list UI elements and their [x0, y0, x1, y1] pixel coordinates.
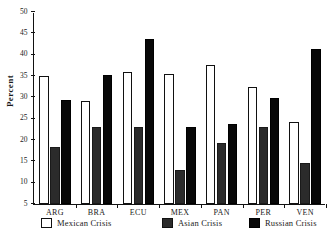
- legend-label: Asian Crisis: [178, 218, 222, 228]
- bar-per-mexican[interactable]: [248, 87, 258, 204]
- bar-mex-asian[interactable]: [175, 170, 185, 204]
- bar-ven-russian[interactable]: [311, 49, 321, 204]
- x-axis-tick: [326, 204, 327, 208]
- bar-ecu-asian[interactable]: [134, 127, 144, 204]
- plot-area: 5101520253035404550ARGBRAECUMEXPANPERVEN: [33, 13, 325, 205]
- bar-ven-mexican[interactable]: [289, 122, 299, 204]
- x-axis-label-ecu: ECU: [130, 208, 147, 217]
- y-axis-tick-label: 15: [20, 156, 28, 166]
- bar-group: VEN: [284, 13, 326, 204]
- x-axis-tick: [76, 204, 77, 208]
- y-axis-tick-label: 30: [20, 92, 28, 102]
- y-axis-tick-label: 10: [20, 177, 28, 187]
- y-axis-tick-label: 5: [24, 199, 28, 209]
- bar-group: PAN: [201, 13, 243, 204]
- x-axis-tick: [117, 204, 118, 208]
- y-axis-tick: 50: [31, 11, 35, 12]
- bar-per-russian[interactable]: [270, 98, 280, 204]
- bar-pan-mexican[interactable]: [206, 65, 216, 204]
- x-axis-tick: [243, 204, 244, 208]
- bar-bra-mexican[interactable]: [81, 101, 91, 204]
- bar-chart: Percent 5101520253035404550ARGBRAECUMEXP…: [0, 0, 336, 239]
- legend-item-mexican[interactable]: Mexican Crisis: [41, 218, 112, 228]
- bar-group: ECU: [117, 13, 159, 204]
- bar-pan-asian[interactable]: [217, 143, 227, 204]
- y-axis-label: Percent: [5, 61, 15, 121]
- x-axis-label-bra: BRA: [88, 208, 105, 217]
- bar-ecu-mexican[interactable]: [123, 72, 133, 204]
- bar-group: MEX: [159, 13, 201, 204]
- legend-item-asian[interactable]: Asian Crisis: [162, 218, 222, 228]
- bar-bra-russian[interactable]: [103, 75, 113, 204]
- legend-label: Russian Crisis: [265, 218, 317, 228]
- x-axis-label-arg: ARG: [46, 208, 64, 217]
- bar-bra-asian[interactable]: [92, 127, 102, 204]
- x-axis-label-pan: PAN: [214, 208, 230, 217]
- y-axis-tick-label: 40: [20, 49, 28, 59]
- legend-label: Mexican Crisis: [57, 218, 112, 228]
- bar-group: PER: [243, 13, 285, 204]
- bar-ecu-russian[interactable]: [145, 39, 155, 204]
- bar-per-asian[interactable]: [259, 127, 269, 204]
- chart-legend: Mexican CrisisAsian CrisisRussian Crisis: [33, 218, 333, 234]
- legend-item-russian[interactable]: Russian Crisis: [249, 218, 317, 228]
- russian-crisis-swatch: [249, 218, 260, 228]
- y-axis-tick-label: 35: [20, 71, 28, 81]
- x-axis-tick: [201, 204, 202, 208]
- bar-group: ARG: [34, 13, 76, 204]
- x-axis-tick: [159, 204, 160, 208]
- y-axis-tick-label: 20: [20, 135, 28, 145]
- mexican-crisis-swatch: [41, 218, 52, 228]
- bar-arg-asian[interactable]: [50, 147, 60, 204]
- bar-mex-mexican[interactable]: [164, 74, 174, 204]
- bar-arg-russian[interactable]: [61, 100, 71, 204]
- x-axis-label-mex: MEX: [171, 208, 190, 217]
- bar-pan-russian[interactable]: [228, 124, 238, 204]
- bar-arg-mexican[interactable]: [39, 76, 49, 204]
- x-axis-label-ven: VEN: [296, 208, 313, 217]
- x-axis-label-per: PER: [256, 208, 272, 217]
- y-axis-tick-label: 45: [20, 28, 28, 38]
- x-axis-tick: [284, 204, 285, 208]
- bar-ven-asian[interactable]: [300, 163, 310, 204]
- bar-mex-russian[interactable]: [186, 127, 196, 204]
- asian-crisis-swatch: [162, 218, 173, 228]
- bar-group: BRA: [76, 13, 118, 204]
- y-axis-tick-label: 50: [20, 7, 28, 17]
- y-axis-tick-label: 25: [20, 113, 28, 123]
